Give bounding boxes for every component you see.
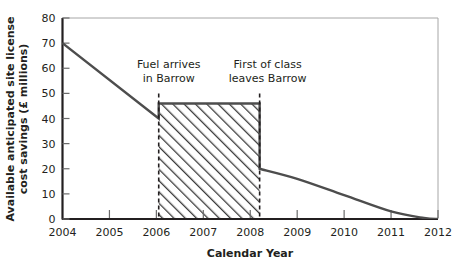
x-tick-label: 2005 (95, 226, 123, 239)
x-axis-title: Calendar Year (207, 247, 294, 260)
annotation-fuel-arrives-line1: Fuel arrives (137, 58, 201, 71)
x-tick-label: 2009 (283, 226, 311, 239)
x-tick-label: 2011 (377, 226, 405, 239)
y-tick-label: 20 (42, 163, 56, 176)
y-tick-label: 70 (42, 37, 56, 50)
annotation-first-of-class-line1: First of class (234, 58, 302, 71)
annotation-first-of-class-line2: leaves Barrow (229, 72, 307, 85)
y-tick-label: 60 (42, 62, 56, 75)
x-tick-label: 2008 (236, 226, 264, 239)
chart-figure: 01020304050607080 2004200520062007200820… (0, 0, 456, 266)
x-tick-label: 2006 (142, 226, 170, 239)
annotation-fuel-arrives: Fuel arrives in Barrow (137, 58, 201, 85)
y-tick-label: 10 (42, 188, 56, 201)
annotation-first-of-class: First of class leaves Barrow (229, 58, 307, 85)
y-tick-label: 0 (49, 213, 56, 226)
y-axis-title-line1: Available anticipated site license (4, 16, 17, 221)
x-tick-label: 2010 (330, 226, 358, 239)
y-axis-title: Available anticipated site license cost … (4, 16, 30, 221)
annotation-fuel-arrives-line2: in Barrow (143, 72, 195, 85)
y-tick-label: 30 (42, 138, 56, 151)
chart-canvas: 01020304050607080 2004200520062007200820… (0, 0, 456, 266)
y-axis-title-line2: cost savings (£ millions) (17, 44, 30, 195)
y-tick-label: 40 (42, 113, 56, 126)
hatched-region (159, 103, 260, 219)
y-tick-label: 80 (42, 12, 56, 25)
y-tick-label: 50 (42, 87, 56, 100)
x-tick-label: 2012 (424, 226, 452, 239)
x-tick-label: 2004 (49, 226, 77, 239)
x-tick-label: 2007 (189, 226, 217, 239)
